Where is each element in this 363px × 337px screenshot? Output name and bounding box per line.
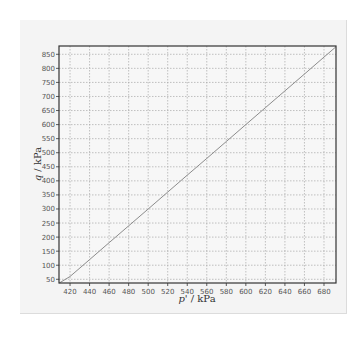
x-tick-label: 500: [141, 288, 154, 296]
x-tick-label: 580: [220, 288, 233, 296]
x-tick-label: 520: [161, 288, 174, 296]
y-tick-label: 250: [42, 220, 55, 228]
x-tick-label: 640: [278, 288, 291, 296]
y-axis-unit: / kPa: [32, 147, 43, 175]
y-tick-label: 450: [42, 163, 55, 171]
y-tick-label: 50: [46, 276, 55, 284]
y-tick-label: 850: [42, 51, 55, 59]
y-tick-label: 400: [42, 177, 55, 185]
x-tick-label: 460: [102, 288, 115, 296]
y-tick-label: 350: [42, 191, 55, 199]
x-axis-label: p' / kPa: [178, 293, 215, 304]
y-tick-label: 750: [42, 79, 55, 87]
x-tick-label: 440: [83, 288, 96, 296]
y-tick-label: 200: [42, 234, 55, 242]
x-tick-label: 480: [122, 288, 135, 296]
y-axis-label: q / kPa: [32, 147, 43, 181]
y-axis-ticks: 5010015020025030035040045050055060065070…: [42, 51, 59, 284]
x-tick-label: 420: [63, 288, 76, 296]
y-tick-label: 100: [42, 262, 55, 270]
x-tick-label: 600: [239, 288, 252, 296]
x-tick-label: 660: [298, 288, 311, 296]
x-axis-symbol: p': [178, 293, 187, 304]
y-tick-label: 300: [42, 205, 55, 213]
y-tick-label: 150: [42, 248, 55, 256]
x-axis-unit: / kPa: [188, 293, 216, 304]
y-tick-label: 700: [42, 93, 55, 101]
y-tick-label: 600: [42, 121, 55, 129]
y-tick-label: 550: [42, 135, 55, 143]
x-tick-label: 680: [317, 288, 330, 296]
y-tick-label: 500: [42, 149, 55, 157]
plot-area: [59, 46, 336, 283]
y-tick-label: 650: [42, 107, 55, 115]
y-tick-label: 800: [42, 65, 55, 73]
x-tick-label: 620: [259, 288, 272, 296]
chart-svg: 4204404604805005205405605806006206406606…: [0, 0, 363, 337]
